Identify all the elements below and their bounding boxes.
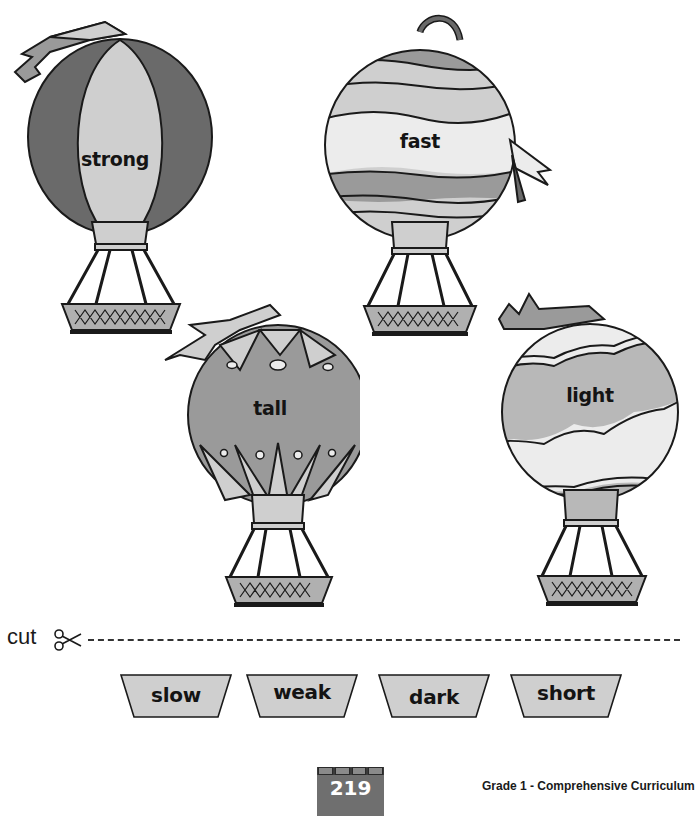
balloon-light: light — [494, 284, 694, 614]
word-card-text: slow — [120, 683, 232, 707]
word-card-text: dark — [378, 685, 490, 709]
word-card-dark[interactable]: dark — [378, 674, 490, 718]
hot-air-balloon-icon — [494, 284, 694, 614]
dashed-cut-line — [88, 639, 680, 641]
word-card-weak[interactable]: weak — [246, 674, 358, 718]
word-card-text: weak — [246, 680, 358, 704]
page-number: 219 — [317, 776, 384, 800]
book-title: Grade 1 - Comprehensive Curriculum — [482, 779, 695, 793]
balloon-word: tall — [180, 397, 360, 419]
cut-line-row: cut — [0, 624, 696, 654]
balloon-word: fast — [320, 130, 520, 152]
page-number-badge: 219 — [317, 767, 384, 816]
balloon-word: light — [494, 384, 686, 406]
scissors-icon — [53, 628, 83, 652]
balloon-tall: tall — [160, 285, 360, 615]
word-card-short[interactable]: short — [510, 674, 622, 718]
word-card-slow[interactable]: slow — [120, 674, 232, 718]
hot-air-balloon-icon — [160, 285, 360, 615]
word-card-text: short — [510, 681, 622, 705]
cut-label: cut — [7, 624, 36, 650]
film-strip-decoration — [317, 767, 384, 775]
balloon-word: strong — [10, 148, 220, 170]
